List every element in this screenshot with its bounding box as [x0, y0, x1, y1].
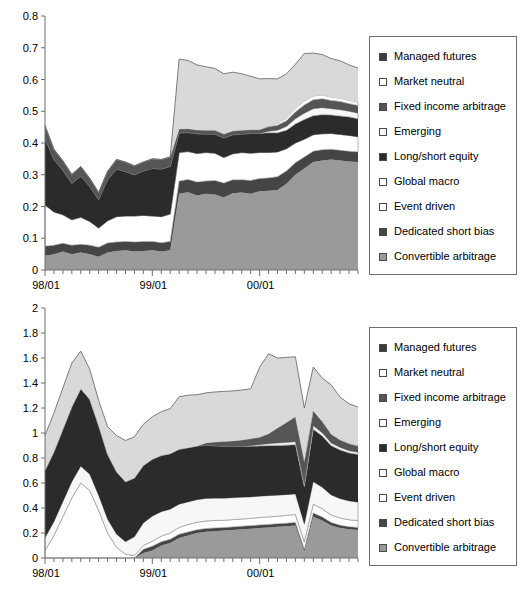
x-tick-label: 98/01 [32, 567, 60, 579]
chart-top-plot: 00.10.20.30.40.50.60.70.898/0199/0100/01 [0, 0, 370, 300]
y-tick-label: 0.2 [23, 527, 38, 539]
y-tick-label: 0.7 [23, 42, 38, 54]
legend-item-global_macro[interactable]: Global macro [379, 460, 508, 485]
legend-item-managed_futures[interactable]: Managed futures [379, 335, 508, 360]
y-tick-label: 2 [32, 302, 38, 314]
legend-label-dedicated_short_bias: Dedicated short bias [394, 517, 494, 528]
legend-swatch-event_driven-icon [379, 203, 387, 211]
chart-bottom-legend: Managed futuresMarket neutralFixed incom… [369, 327, 517, 566]
y-tick-label: 0 [32, 264, 38, 276]
legend-swatch-convertible_arbitrage-icon [379, 544, 387, 552]
legend-item-event_driven[interactable]: Event driven [379, 485, 508, 510]
legend-swatch-global_macro-icon [379, 469, 387, 477]
figure-root: 00.10.20.30.40.50.60.70.898/0199/0100/01… [0, 0, 523, 591]
legend-item-managed_futures[interactable]: Managed futures [379, 44, 508, 69]
y-tick-label: 0.3 [23, 169, 38, 181]
legend-item-market_neutral[interactable]: Market neutral [379, 69, 508, 94]
y-tick-label: 1.4 [23, 377, 38, 389]
legend-item-long_short_equity[interactable]: Long/short equity [379, 435, 508, 460]
y-tick-label: 0.1 [23, 232, 38, 244]
legend-swatch-emerging-icon [379, 419, 387, 427]
y-tick-label: 1 [32, 427, 38, 439]
legend-swatch-global_macro-icon [379, 178, 387, 186]
legend-item-fixed_income_arbitrage[interactable]: Fixed income arbitrage [379, 94, 508, 119]
y-tick-label: 0.2 [23, 201, 38, 213]
legend-swatch-long_short_equity-icon [379, 153, 387, 161]
legend-label-event_driven: Event driven [394, 492, 455, 503]
x-tick-label: 98/01 [32, 279, 60, 291]
x-tick-label: 99/01 [140, 567, 168, 579]
legend-swatch-convertible_arbitrage-icon [379, 253, 387, 261]
y-tick-label: 0.6 [23, 477, 38, 489]
legend-swatch-long_short_equity-icon [379, 444, 387, 452]
y-tick-label: 1.8 [23, 327, 38, 339]
legend-label-emerging: Emerging [394, 126, 441, 137]
y-tick-label: 0.4 [23, 137, 38, 149]
legend-item-fixed_income_arbitrage[interactable]: Fixed income arbitrage [379, 385, 508, 410]
x-tick-label: 00/01 [247, 279, 275, 291]
legend-swatch-market_neutral-icon [379, 369, 387, 377]
legend-label-convertible_arbitrage: Convertible arbitrage [394, 542, 496, 553]
legend-label-event_driven: Event driven [394, 201, 455, 212]
legend-swatch-market_neutral-icon [379, 78, 387, 86]
x-tick-label: 00/01 [247, 567, 275, 579]
legend-swatch-fixed_income_arbitrage-icon [379, 394, 387, 402]
legend-label-fixed_income_arbitrage: Fixed income arbitrage [394, 392, 506, 403]
legend-item-emerging[interactable]: Emerging [379, 410, 508, 435]
legend-swatch-fixed_income_arbitrage-icon [379, 103, 387, 111]
legend-swatch-managed_futures-icon [379, 344, 387, 352]
legend-swatch-dedicated_short_bias-icon [379, 228, 387, 236]
legend-item-convertible_arbitrage[interactable]: Convertible arbitrage [379, 244, 508, 269]
chart-top-legend: Managed futuresMarket neutralFixed incom… [369, 36, 517, 275]
legend-item-market_neutral[interactable]: Market neutral [379, 360, 508, 385]
legend-label-convertible_arbitrage: Convertible arbitrage [394, 251, 496, 262]
y-tick-label: 0 [32, 552, 38, 564]
legend-label-managed_futures: Managed futures [394, 51, 477, 62]
legend-label-managed_futures: Managed futures [394, 342, 477, 353]
legend-item-long_short_equity[interactable]: Long/short equity [379, 144, 508, 169]
y-tick-label: 0.8 [23, 452, 38, 464]
y-tick-label: 1.2 [23, 402, 38, 414]
legend-swatch-dedicated_short_bias-icon [379, 519, 387, 527]
legend-swatch-event_driven-icon [379, 494, 387, 502]
chart-bottom-plot: 00.20.40.60.811.21.41.61.8298/0199/0100/… [0, 300, 370, 591]
legend-item-convertible_arbitrage[interactable]: Convertible arbitrage [379, 535, 508, 560]
legend-item-event_driven[interactable]: Event driven [379, 194, 508, 219]
legend-item-dedicated_short_bias[interactable]: Dedicated short bias [379, 510, 508, 535]
legend-item-dedicated_short_bias[interactable]: Dedicated short bias [379, 219, 508, 244]
chart-top-svg: 00.10.20.30.40.50.60.70.898/0199/0100/01 [0, 0, 370, 300]
legend-label-emerging: Emerging [394, 417, 441, 428]
legend-label-global_macro: Global macro [394, 176, 459, 187]
legend-label-dedicated_short_bias: Dedicated short bias [394, 226, 494, 237]
legend-label-global_macro: Global macro [394, 467, 459, 478]
legend-label-long_short_equity: Long/short equity [394, 442, 478, 453]
y-tick-label: 1.6 [23, 352, 38, 364]
legend-swatch-emerging-icon [379, 128, 387, 136]
chart-top: 00.10.20.30.40.50.60.70.898/0199/0100/01… [0, 0, 523, 300]
y-tick-label: 0.6 [23, 74, 38, 86]
legend-swatch-managed_futures-icon [379, 53, 387, 61]
y-tick-label: 0.4 [23, 502, 38, 514]
y-tick-label: 0.5 [23, 105, 38, 117]
x-tick-label: 99/01 [140, 279, 168, 291]
y-tick-label: 0.8 [23, 10, 38, 22]
chart-bottom-svg: 00.20.40.60.811.21.41.61.8298/0199/0100/… [0, 300, 370, 591]
legend-item-global_macro[interactable]: Global macro [379, 169, 508, 194]
legend-label-long_short_equity: Long/short equity [394, 151, 478, 162]
legend-label-market_neutral: Market neutral [394, 76, 464, 87]
legend-label-market_neutral: Market neutral [394, 367, 464, 378]
chart-bottom: 00.20.40.60.811.21.41.61.8298/0199/0100/… [0, 300, 523, 591]
legend-label-fixed_income_arbitrage: Fixed income arbitrage [394, 101, 506, 112]
legend-item-emerging[interactable]: Emerging [379, 119, 508, 144]
